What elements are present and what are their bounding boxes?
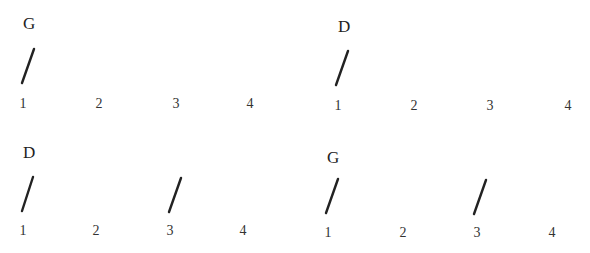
strum-slash-icon — [169, 178, 181, 212]
strum-slash-icon — [22, 177, 33, 211]
strum-slash-icon — [22, 49, 34, 83]
strum-slash-icon — [474, 180, 486, 214]
strum-marks — [0, 0, 590, 253]
strum-slash-icon — [336, 51, 348, 85]
strum-slash-icon — [326, 179, 338, 213]
